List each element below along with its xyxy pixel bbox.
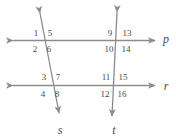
angle-label-13: 13: [123, 29, 132, 38]
line-t: [112, 12, 117, 116]
line-label-s: s: [58, 124, 63, 136]
angle-label-14: 14: [122, 45, 131, 54]
angle-label-1: 1: [34, 29, 39, 38]
angle-label-11: 11: [102, 73, 111, 82]
angle-label-6: 6: [47, 45, 52, 54]
angle-label-8: 8: [55, 90, 60, 99]
angle-label-4: 4: [41, 90, 46, 99]
line-label-r: r: [164, 80, 169, 92]
angle-label-3: 3: [42, 73, 47, 82]
angle-label-7: 7: [56, 73, 61, 82]
diagram-canvas: [0, 0, 176, 139]
angle-label-12: 12: [101, 90, 110, 99]
line-label-t: t: [112, 124, 115, 136]
line-label-p: p: [163, 33, 169, 45]
angle-label-16: 16: [118, 90, 127, 99]
angle-label-5: 5: [48, 29, 53, 38]
angle-label-2: 2: [33, 45, 38, 54]
geometry-diagram: 1 5 2 6 9 13 10 14 3 7 4 8 11 15 12 16 p…: [0, 0, 176, 139]
angle-label-9: 9: [108, 29, 113, 38]
angle-label-10: 10: [105, 45, 114, 54]
angle-label-15: 15: [119, 73, 128, 82]
